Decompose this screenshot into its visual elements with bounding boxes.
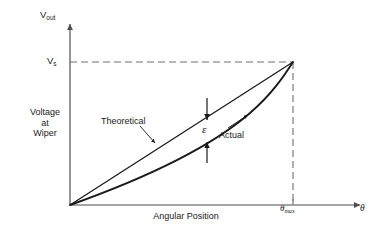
y-axis-description-line-2: at xyxy=(30,118,60,129)
x-axis-symbol: θ xyxy=(360,203,365,214)
actual-leader-line xyxy=(228,115,248,128)
x-axis-tick-thetamax: θmax xyxy=(280,203,295,214)
potentiometer-linearity-figure: Vout Vs Voltage at Wiper Angular Positio… xyxy=(0,0,381,237)
y-axis-tick-vs: Vs xyxy=(47,55,57,66)
x-axis-title: Angular Position xyxy=(153,211,219,222)
y-axis-tick-vs-sub: s xyxy=(53,60,56,67)
error-epsilon-label: ε xyxy=(202,123,206,136)
y-axis-description-label: Voltage at Wiper xyxy=(30,107,60,139)
theoretical-leader-line xyxy=(140,126,155,143)
theoretical-curve-label: Theoretical xyxy=(101,116,146,127)
y-axis-title-sub: out xyxy=(46,14,55,21)
y-axis-description-line-3: Wiper xyxy=(30,128,60,139)
actual-curve-label: Actual xyxy=(219,130,244,141)
y-axis-title: Vout xyxy=(40,9,55,20)
theoretical-curve xyxy=(70,62,293,205)
y-axis-description-line-1: Voltage xyxy=(30,107,60,118)
x-axis-tick-thetamax-sub: max xyxy=(284,208,294,214)
